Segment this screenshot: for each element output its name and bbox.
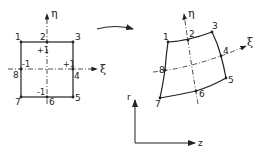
mapped-node-label-3: 3 bbox=[212, 21, 218, 31]
parent-node-label-8: 8 bbox=[13, 70, 19, 80]
xi-label-parent: ξ bbox=[100, 63, 106, 76]
global-axes: r z bbox=[127, 92, 203, 148]
parent-node-label-2: 2 bbox=[40, 32, 46, 42]
mapping-arrow-icon bbox=[97, 27, 133, 30]
xi-label-mapped: ξ bbox=[247, 36, 253, 49]
mapped-element: 1 2 3 4 5 6 7 8 η ξ bbox=[153, 7, 253, 109]
mapped-node-label-7: 7 bbox=[155, 99, 161, 109]
parent-node-label-5: 5 bbox=[75, 93, 81, 103]
parent-element: 1 2 3 4 5 6 7 8 +1 +1 -1 -1 η ξ bbox=[8, 7, 106, 107]
coord-mark-right: +1 bbox=[63, 60, 75, 69]
parent-node-label-1: 1 bbox=[15, 32, 21, 42]
parent-node-label-4: 4 bbox=[74, 71, 80, 81]
mapped-node-label-1: 1 bbox=[163, 32, 169, 42]
parent-node-label-6: 6 bbox=[49, 97, 55, 107]
mapped-node-label-8: 8 bbox=[159, 65, 165, 75]
mapped-node-label-2: 2 bbox=[189, 29, 195, 39]
coord-mark-bottom: -1 bbox=[37, 88, 45, 97]
parent-node-label-3: 3 bbox=[75, 32, 81, 42]
coord-mark-left: -1 bbox=[22, 60, 30, 69]
parent-node-label-7: 7 bbox=[15, 97, 21, 107]
coord-mark-top: +1 bbox=[37, 46, 49, 55]
mapped-node-label-6: 6 bbox=[199, 89, 205, 99]
mapped-node-label-4: 4 bbox=[223, 46, 229, 56]
mapped-node-label-5: 5 bbox=[228, 75, 234, 85]
diagram-canvas: 1 2 3 4 5 6 7 8 +1 +1 -1 -1 η ξ bbox=[0, 0, 264, 156]
r-axis-label: r bbox=[127, 92, 131, 102]
eta-label-parent: η bbox=[51, 7, 58, 20]
z-axis-label: z bbox=[198, 138, 203, 148]
eta-label-mapped: η bbox=[188, 7, 195, 20]
